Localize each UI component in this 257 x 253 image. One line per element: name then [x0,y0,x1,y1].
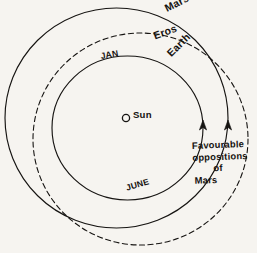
sun-label: Sun [133,110,152,120]
favourable-oppositions-annotation: Favourable oppositions of Mars [181,139,255,185]
opposition-text-line-4: Mars [169,173,243,187]
mars-orbit-path [5,8,228,228]
opposition-text-line-3: of [181,161,255,175]
sun-marker [122,114,129,121]
orbit-diagram-canvas [0,0,257,253]
orbit-diagram-figure: Mars Eros Earth JAN JUNE Sun Favourable … [0,0,257,253]
